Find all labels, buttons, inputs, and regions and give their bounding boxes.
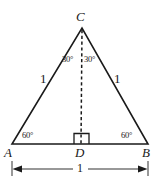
geometry-figure: C A D B 30° 30° 60° 60° 1 1 1 bbox=[0, 0, 156, 179]
vertex-label-b: B bbox=[142, 146, 150, 159]
side-label-left: 1 bbox=[40, 72, 47, 85]
dimension-arrowhead-left bbox=[13, 166, 23, 173]
vertex-label-d: D bbox=[75, 146, 84, 159]
altitude-dashed-line bbox=[81, 30, 82, 144]
dimension-label-base: 1 bbox=[77, 162, 83, 174]
dimension-arrowhead-right bbox=[138, 166, 148, 173]
triangle-outline bbox=[12, 28, 148, 144]
vertex-label-a: A bbox=[4, 146, 12, 159]
angle-label-at-b: 60° bbox=[121, 131, 132, 140]
angle-label-apex-right: 30° bbox=[84, 55, 95, 64]
angle-label-at-a: 60° bbox=[22, 131, 33, 140]
vertex-label-c: C bbox=[76, 10, 85, 23]
angle-label-apex-left: 30° bbox=[62, 55, 73, 64]
side-label-right: 1 bbox=[114, 72, 121, 85]
